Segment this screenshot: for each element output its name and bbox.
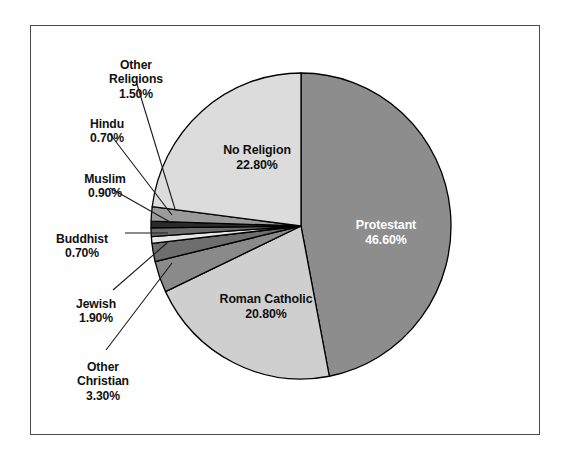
slice-label-no-religion: No Religion 22.80% [192, 143, 322, 173]
pie-chart-canvas: Protestant 46.60%Roman Catholic 20.80%Ot… [0, 0, 567, 458]
slice-label-no-religion-name: No Religion [223, 143, 291, 157]
slice-label-protestant: Protestant 46.60% [325, 218, 447, 248]
leader-line-other-christian [106, 263, 172, 350]
slice-label-roman-catholic-name: Roman Catholic [220, 292, 313, 306]
slice-label-roman-catholic-value: 20.80% [190, 307, 342, 322]
slice-label-protestant-name: Protestant [356, 218, 416, 232]
slice-label-protestant-value: 46.60% [325, 233, 447, 248]
slice-label-roman-catholic: Roman Catholic 20.80% [190, 292, 342, 322]
pie-chart-figure: Protestant 46.60%Roman Catholic 20.80%Ot… [0, 0, 567, 458]
slice-label-no-religion-value: 22.80% [192, 158, 322, 173]
